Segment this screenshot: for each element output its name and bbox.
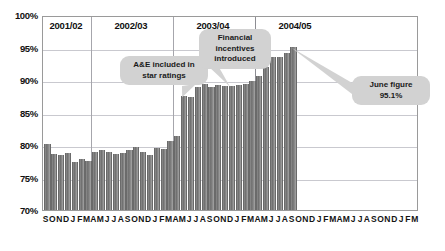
annotation-line: star ratings — [125, 71, 203, 82]
annotation-financial-incentives: Financialincentivesintroduced — [199, 29, 271, 69]
annotation-line: A&E included in — [125, 60, 203, 71]
chart-container: 100%95%90%85%80%75%70% 2001/022002/03200… — [0, 0, 445, 251]
annotation-line: introduced — [204, 54, 266, 65]
annotation-line: Financial — [204, 33, 266, 44]
annotation-tail — [182, 84, 196, 97]
annotation-tail — [292, 48, 354, 94]
annotation-line: incentives — [204, 44, 266, 55]
annotation-line: June figure — [357, 80, 425, 91]
annotation-june-figure: June figure95.1% — [352, 76, 430, 105]
annotation-line: 95.1% — [357, 91, 425, 102]
annotation-ae-included: A&E included instar ratings — [120, 56, 208, 85]
